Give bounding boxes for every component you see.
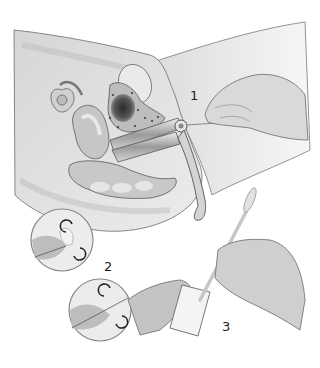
step-label-3: 3 [222,319,230,334]
illustration [0,0,320,368]
step-label-2: 2 [104,259,112,274]
hand-holding-spatula [215,239,305,330]
detail-circle-bottom [69,279,131,341]
detail-circle-top [31,209,93,271]
step-label-1: 1 [190,88,198,103]
